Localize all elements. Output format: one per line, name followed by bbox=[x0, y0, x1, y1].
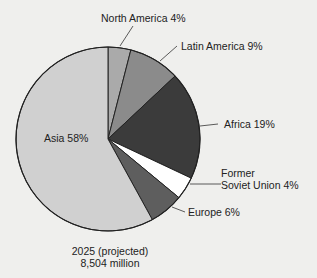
label-africa: Africa 19% bbox=[224, 118, 275, 130]
label-asia: Asia 58% bbox=[44, 132, 88, 144]
label-latin-america: Latin America 9% bbox=[181, 40, 263, 52]
leader-line-north-america bbox=[120, 26, 133, 46]
leader-line-africa bbox=[200, 124, 218, 126]
label-former-soviet-union-line2: Soviet Union 4% bbox=[221, 179, 299, 191]
leader-line-europe bbox=[172, 207, 185, 212]
leader-line-latin-america bbox=[160, 46, 177, 61]
label-north-america: North America 4% bbox=[101, 12, 186, 24]
chart-caption-total: 8,504 million bbox=[60, 257, 160, 269]
label-former-soviet-union-line1: Former bbox=[221, 167, 255, 179]
chart-caption-year: 2025 (projected) bbox=[60, 245, 160, 257]
label-europe: Europe 6% bbox=[188, 206, 240, 218]
